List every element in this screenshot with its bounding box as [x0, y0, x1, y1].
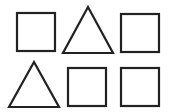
row-1 — [17, 7, 159, 53]
square-shape — [121, 14, 159, 52]
row-2 — [9, 62, 159, 107]
square-shape — [121, 68, 159, 106]
triangle-shape — [9, 62, 59, 107]
triangle-shape — [63, 7, 113, 53]
square-shape — [17, 13, 55, 51]
shape-grid — [0, 0, 169, 112]
square-shape — [68, 68, 106, 106]
